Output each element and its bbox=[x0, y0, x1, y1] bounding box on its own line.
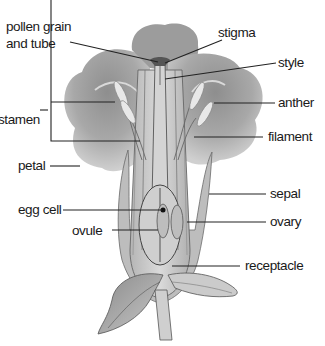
label-receptacle: receptacle bbox=[245, 258, 303, 273]
label-egg-cell: egg cell bbox=[18, 202, 62, 217]
label-ovule: ovule bbox=[72, 223, 102, 238]
label-ovary: ovary bbox=[270, 214, 302, 229]
label-pollen-grain: pollen grain bbox=[6, 19, 71, 34]
label-petal: petal bbox=[18, 158, 46, 173]
flower-diagram: pollen grain and tube stigma style anthe… bbox=[0, 0, 325, 346]
label-and-tube: and tube bbox=[6, 36, 55, 51]
label-stamen: stamen bbox=[0, 112, 40, 127]
label-filament: filament bbox=[268, 129, 313, 144]
label-anther: anther bbox=[278, 95, 315, 110]
label-stigma: stigma bbox=[218, 25, 256, 40]
label-sepal: sepal bbox=[270, 186, 301, 201]
label-style: style bbox=[278, 55, 304, 70]
